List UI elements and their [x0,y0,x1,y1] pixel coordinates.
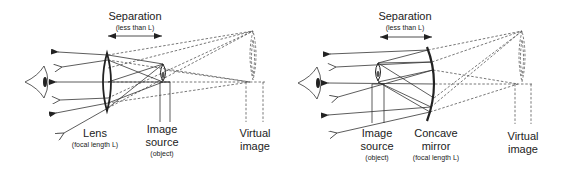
virtual-ray-traces [108,31,265,122]
separation-subtitle: (less than L) [116,24,155,32]
mirror-label-2: mirror [422,140,451,152]
eye-icon [25,66,48,98]
separation-subtitle: (less than L) [386,24,425,32]
eye-icon [298,67,321,99]
mirror-panel: Separation (less than L) [298,10,538,162]
lens-label: Lens [83,127,107,139]
virtual-label-1: Virtual [508,130,539,142]
source-object-label: (object) [365,154,388,162]
separation-indicator: Separation (less than L) [108,10,162,36]
source-label-2: source [145,136,178,148]
virtual-label-2: image [240,140,270,152]
real-rays [328,50,435,133]
mirror-label-1: Concave [414,127,457,139]
image-source-candle [160,64,170,122]
virtual-label-2: image [508,143,538,155]
separation-title: Separation [378,10,431,22]
optics-diagram: Separation (less than L) [0,0,562,172]
separation-indicator: Separation (less than L) [378,10,432,37]
virtual-label-1: Virtual [240,127,271,139]
separation-title: Separation [108,10,161,22]
source-label-1: Image [147,123,178,135]
mirror-focal-label: (focal length L) [413,154,459,162]
source-object-label: (object) [150,150,173,158]
real-rays [56,52,170,133]
virtual-ray-traces [428,31,532,124]
lens-panel: Separation (less than L) [25,10,270,158]
image-source-candle [372,63,384,123]
source-label-1: Image [362,127,393,139]
source-label-2: source [360,140,393,152]
lens-focal-label: (focal length L) [72,141,118,149]
